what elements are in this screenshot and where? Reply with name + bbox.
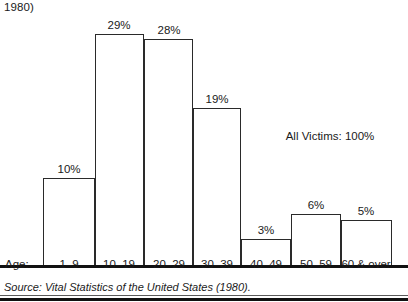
bar-value-20-29: 28%: [157, 24, 180, 36]
bar-30-39: [193, 108, 241, 266]
tick-label-20-29: 20–29: [153, 258, 185, 270]
source-note: Source: Vital Statistics of the United S…: [4, 281, 251, 293]
tick-label-60-over: 60 & over: [341, 258, 390, 270]
bar-value-10-19: 29%: [107, 19, 130, 31]
axis-title-age: Age:: [5, 258, 29, 270]
bar-value-50-59: 6%: [308, 199, 325, 211]
x-axis-labels: Age: 1–9 10–19 20–29 30–39 40–49 50–59 6…: [0, 258, 408, 278]
bar-10-19: [95, 34, 144, 266]
bar-value-1-9: 10%: [57, 163, 80, 175]
bar-value-40-49: 3%: [258, 224, 275, 236]
tick-label-50-59: 50–59: [300, 258, 332, 270]
bar-20-29: [144, 39, 193, 266]
plot-area: 10% 29% 28% 19% 3% 6% 5% All Victims: 10…: [0, 14, 408, 254]
bar-value-30-39: 19%: [205, 93, 228, 105]
tick-label-30-39: 30–39: [201, 258, 233, 270]
bar-1-9: [43, 178, 95, 266]
footer-rule-thick: [0, 298, 408, 301]
all-victims-annotation: All Victims: 100%: [286, 130, 375, 142]
figure-container: 1980) 10% 29% 28% 19% 3% 6% 5% All Victi…: [0, 0, 408, 302]
tick-label-10-19: 10–19: [103, 258, 135, 270]
bar-value-60-over: 5%: [358, 205, 375, 217]
caption-tail-text: 1980): [4, 1, 34, 13]
tick-label-40-49: 40–49: [250, 258, 282, 270]
tick-label-1-9: 1–9: [59, 258, 78, 270]
footer-rule-thin: [0, 295, 408, 296]
